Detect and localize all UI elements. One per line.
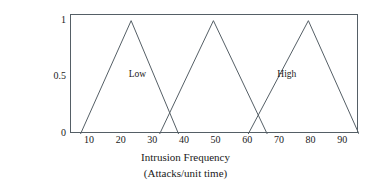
x-axis-title: Intrusion Frequency (Attacks/unit time) <box>0 150 371 182</box>
y-tick-label: 1 <box>42 15 66 25</box>
x-tick-label: 60 <box>236 135 258 145</box>
x-tick-label: 70 <box>268 135 290 145</box>
x-tick-label: 30 <box>141 135 163 145</box>
plot-area: Low High <box>70 14 358 133</box>
membership-curves <box>71 15 359 134</box>
series-label-low: Low <box>129 70 146 80</box>
x-tick-label: 50 <box>205 135 227 145</box>
membership-curve-high <box>248 21 359 134</box>
x-tick-label: 20 <box>110 135 132 145</box>
series-label-high: High <box>277 70 296 80</box>
x-tick-label: 40 <box>173 135 195 145</box>
y-tick-label: 0 <box>42 128 66 138</box>
x-tick-label: 90 <box>331 135 353 145</box>
x-axis-tick-labels: 102030405060708090 <box>70 135 358 149</box>
fuzzy-membership-chart: Membership Function 1 0.5 0 Low High 102… <box>0 0 371 189</box>
x-tick-label: 80 <box>300 135 322 145</box>
x-tick-label: 10 <box>78 135 100 145</box>
x-axis-title-line-1: Intrusion Frequency <box>0 150 371 166</box>
y-axis-title: Membership Function <box>8 14 42 134</box>
x-axis-title-line-2: (Attacks/unit time) <box>0 166 371 182</box>
membership-curve-medium <box>160 21 268 134</box>
y-tick-label: 0.5 <box>42 71 66 81</box>
